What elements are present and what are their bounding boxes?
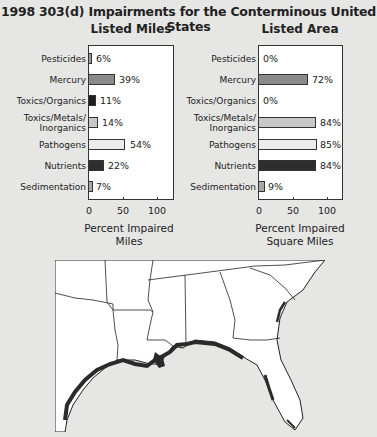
value-label: 22% bbox=[108, 160, 129, 171]
tick-mark bbox=[293, 197, 294, 200]
value-label: 39% bbox=[119, 74, 140, 85]
value-label: 84% bbox=[320, 117, 341, 128]
bar-toxics-metals bbox=[258, 117, 316, 128]
right-panel-title: Listed Area bbox=[240, 22, 360, 36]
value-label: 6% bbox=[96, 53, 111, 64]
category-label: Nutrients bbox=[0, 161, 86, 171]
x-axis-label: Percent Impaired Miles bbox=[64, 222, 194, 248]
value-label: 0% bbox=[263, 53, 278, 64]
category-label: Pathogens bbox=[170, 140, 256, 150]
x-tick: 100 bbox=[142, 205, 172, 216]
bar-mercury bbox=[258, 74, 308, 85]
x-axis-label-line2: Miles bbox=[64, 235, 194, 248]
value-label: 11% bbox=[100, 95, 121, 106]
value-label: 7% bbox=[96, 181, 111, 192]
category-label: Pesticides bbox=[170, 54, 256, 64]
x-tick: 50 bbox=[278, 205, 308, 216]
value-label: 54% bbox=[130, 139, 151, 150]
category-label: Mercury bbox=[0, 75, 86, 85]
value-label: 14% bbox=[102, 117, 123, 128]
x-axis-label: Percent Impaired Square Miles bbox=[235, 222, 365, 248]
bar-nutrients bbox=[88, 160, 104, 171]
x-tick: 100 bbox=[312, 205, 342, 216]
bar-pathogens bbox=[88, 139, 125, 150]
category-label: Pesticides bbox=[0, 54, 86, 64]
bar-sedimentation bbox=[258, 181, 265, 192]
category-label: Sedimentation bbox=[170, 182, 256, 192]
bar-nutrients bbox=[258, 160, 316, 171]
tick-mark bbox=[123, 197, 124, 200]
bar-mercury bbox=[88, 74, 115, 85]
category-label: Nutrients bbox=[170, 161, 256, 171]
bar-pesticides bbox=[88, 53, 92, 64]
bar-sedimentation bbox=[88, 181, 93, 192]
x-axis-label-line1: Percent Impaired bbox=[64, 222, 194, 235]
value-label: 0% bbox=[263, 95, 278, 106]
value-label: 72% bbox=[312, 74, 333, 85]
category-label: Toxics/Metals/ bbox=[170, 113, 256, 123]
value-label: 9% bbox=[268, 181, 283, 192]
category-label: Toxics/Metals/ bbox=[0, 113, 86, 123]
tick-mark bbox=[157, 197, 158, 200]
x-tick: 50 bbox=[108, 205, 138, 216]
tick-mark bbox=[327, 197, 328, 200]
left-plot-frame bbox=[88, 45, 174, 200]
value-label: 84% bbox=[320, 160, 341, 171]
category-label: Pathogens bbox=[0, 140, 86, 150]
category-label: Mercury bbox=[170, 75, 256, 85]
bar-toxics-organics bbox=[88, 95, 96, 106]
bar-toxics-metals bbox=[88, 117, 98, 128]
value-label: 85% bbox=[320, 139, 341, 150]
category-label: Sedimentation bbox=[0, 182, 86, 192]
category-label: Toxics/Organics bbox=[0, 96, 86, 106]
southeast-us-map bbox=[55, 260, 325, 432]
category-label: Inorganics bbox=[170, 123, 256, 133]
category-label: Toxics/Organics bbox=[170, 96, 256, 106]
x-tick: 0 bbox=[244, 205, 274, 216]
left-panel-title: Listed Miles bbox=[71, 22, 191, 36]
x-tick: 0 bbox=[74, 205, 104, 216]
bar-pathogens bbox=[258, 139, 317, 150]
category-label: Inorganics bbox=[0, 123, 86, 133]
x-axis-label-line1: Percent Impaired bbox=[235, 222, 365, 235]
x-axis-label-line2: Square Miles bbox=[235, 235, 365, 248]
